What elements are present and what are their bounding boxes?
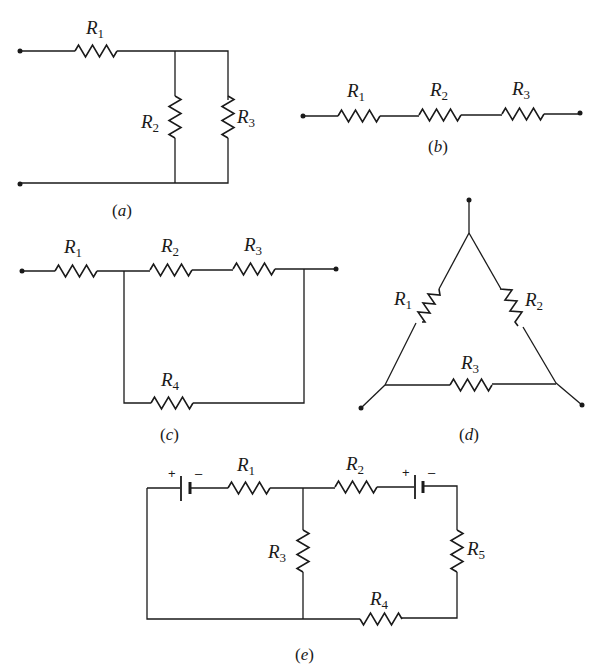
circuit-b: R1 R2 R3 (b)	[301, 78, 583, 156]
wire	[439, 233, 469, 289]
label-r3: R3	[243, 234, 262, 258]
battery-1-plus-sign: +	[168, 466, 176, 481]
label-r3: R3	[460, 352, 479, 376]
caption-e: (e)	[295, 645, 314, 664]
resistor-r2	[500, 289, 522, 326]
resistor-r1	[75, 45, 117, 57]
wire	[385, 323, 416, 385]
label-r3: R3	[236, 106, 255, 130]
wire	[147, 488, 360, 619]
circuit-e: + – + – R1 R2 R3 R4 R5 (e)	[147, 453, 485, 664]
resistor-circuits-figure: R1 R2 R3 (a) R1 R2 R3 (b) R1 R2 R	[0, 0, 598, 671]
wire	[124, 271, 151, 403]
battery-2-plus-sign: +	[402, 465, 410, 480]
wire	[556, 383, 582, 405]
resistor-r3	[297, 530, 309, 572]
resistor-r3	[222, 96, 234, 138]
resistor-r1	[338, 110, 380, 122]
wire	[117, 51, 228, 100]
resistor-r1	[418, 289, 440, 322]
terminal-node	[18, 182, 23, 187]
label-r4: R4	[369, 588, 389, 612]
label-r4: R4	[160, 369, 180, 393]
circuit-c: R1 R2 R3 R4 (c)	[20, 234, 339, 444]
caption-b: (b)	[428, 137, 448, 156]
wire	[402, 572, 457, 618]
wire	[20, 138, 228, 183]
label-r2: R2	[524, 289, 543, 313]
wire	[361, 385, 385, 408]
label-r3: R3	[511, 78, 530, 102]
terminal-node	[578, 111, 583, 116]
resistor-r1	[228, 482, 270, 494]
wire	[469, 233, 501, 289]
label-r1: R1	[85, 17, 104, 41]
wire	[424, 486, 457, 530]
battery-1-minus-sign: –	[195, 466, 203, 481]
label-r1: R1	[63, 236, 82, 260]
resistor-r2	[419, 109, 461, 121]
resistor-r2	[335, 481, 377, 493]
resistor-r3	[233, 263, 275, 275]
resistor-r3	[450, 379, 492, 391]
resistor-r3	[502, 108, 544, 120]
resistor-r4	[360, 613, 402, 625]
resistor-r2	[169, 96, 181, 138]
resistor-r5	[451, 530, 463, 572]
caption-c: (c)	[160, 425, 179, 444]
circuit-a: R1 R2 R3 (a)	[18, 17, 256, 220]
label-r3: R3	[267, 541, 286, 565]
resistor-r1	[55, 265, 97, 277]
label-r2: R2	[160, 235, 179, 259]
wire	[523, 327, 556, 383]
battery-2-minus-sign: –	[428, 465, 436, 480]
label-r2: R2	[429, 79, 448, 103]
label-r1: R1	[393, 288, 412, 312]
label-r2: R2	[140, 111, 159, 135]
wire	[193, 269, 304, 403]
label-r2: R2	[345, 453, 364, 477]
circuit-d: R1 R2 R3 (d)	[359, 198, 585, 445]
caption-a: (a)	[112, 201, 132, 220]
label-r5: R5	[466, 538, 485, 562]
caption-d: (d)	[459, 425, 479, 444]
label-r1: R1	[236, 454, 255, 478]
resistor-r2	[150, 264, 192, 276]
resistor-r4	[151, 397, 193, 409]
label-r1: R1	[346, 80, 365, 104]
